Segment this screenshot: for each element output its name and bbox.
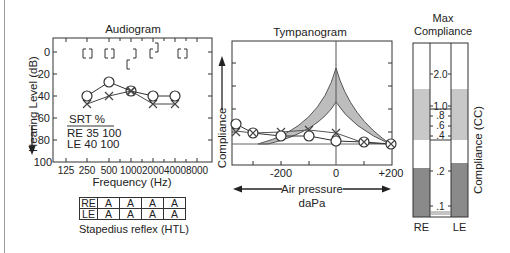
tympanogram-x-unit: daPa [299, 197, 326, 209]
svg-text:.2: .2 [436, 166, 445, 177]
svg-text:60: 60 [38, 112, 50, 124]
reflex-cell: A [120, 198, 142, 209]
srt-header: SRT % [69, 113, 105, 125]
tympanogram-y-label: Compliance [216, 108, 228, 169]
max-compliance-title-1: Max [433, 12, 454, 24]
max-compliance-title-2: Compliance [414, 25, 472, 37]
figure-canvas: Audiogram 0 20 40 60 80 100 125 250 50 [0, 0, 510, 253]
max-compliance-col-le: LE [453, 221, 466, 233]
svg-text:2000: 2000 [142, 165, 165, 176]
svg-text:40: 40 [38, 90, 50, 102]
audiogram-re-line [87, 82, 175, 96]
svg-text:0: 0 [44, 46, 50, 58]
tympanogram-frame [232, 41, 392, 165]
svg-text:4000: 4000 [164, 165, 187, 176]
svg-text:.1: .1 [436, 201, 445, 212]
srt-le: LE 40 100 [67, 138, 119, 150]
reflex-row-re: RE A A A A [80, 198, 186, 209]
reflex-cell: A [164, 209, 186, 220]
svg-text:0: 0 [333, 167, 339, 179]
tympanogram-x-tick-labels: -200 0 +200 [270, 167, 403, 179]
svg-text:1000: 1000 [120, 165, 143, 176]
reflex-row-label: LE [80, 209, 98, 220]
reflex-row-label: RE [80, 198, 98, 209]
svg-text:8000: 8000 [186, 165, 209, 176]
stapedius-reflex-table: RE A A A A LE A A A A [79, 197, 186, 220]
audiogram-le-line [87, 91, 175, 104]
svg-text:.4: .4 [436, 130, 445, 141]
audiogram-y-label: Hearing Level (dB) [27, 56, 39, 152]
reflex-caption: Stapedius reflex (HTL) [74, 223, 194, 235]
le-band-low [451, 163, 468, 217]
audiogram-le-x-markers [83, 87, 179, 108]
svg-text:+200: +200 [379, 167, 404, 179]
svg-text:100: 100 [34, 156, 52, 168]
re-band-low [413, 168, 430, 217]
svg-text:-200: -200 [270, 167, 292, 179]
max-compliance-col-re: RE [414, 221, 429, 233]
audiogram-x-label: Frequency (Hz) [92, 176, 171, 188]
audiogram-title: Audiogram [105, 23, 161, 35]
overlap-x-marker [127, 87, 135, 95]
svg-text:20: 20 [38, 68, 50, 80]
max-compliance-y-label: Compliance (CC) [472, 106, 484, 194]
audiogram-re-o-markers [82, 77, 180, 101]
reflex-cell: A [98, 209, 120, 220]
tympanogram-x-label: Air pressure [281, 183, 343, 195]
svg-text:125: 125 [58, 165, 75, 176]
svg-text:250: 250 [79, 165, 96, 176]
le-band-top [451, 43, 468, 89]
svg-text:80: 80 [38, 134, 50, 146]
reflex-cell: A [120, 209, 142, 220]
tympanogram-title: Tympanogram [273, 26, 347, 38]
svg-text:2.0: 2.0 [434, 69, 448, 80]
audiogram-x-tick-labels: 125 250 500 1000 2000 4000 8000 [58, 165, 209, 176]
reflex-cell: A [142, 198, 164, 209]
reflex-cell: A [142, 209, 164, 220]
le-band-normal [451, 140, 468, 163]
reflex-cell: A [164, 198, 186, 209]
up-arrow-icon [219, 56, 226, 110]
bone-conduction-markers [83, 43, 187, 69]
re-band-top [413, 43, 430, 89]
reflex-row-le: LE A A A A [80, 209, 186, 220]
le-band-high [451, 89, 468, 140]
svg-text:500: 500 [101, 165, 118, 176]
re-band-high [413, 89, 430, 140]
reflex-cell: A [98, 198, 120, 209]
re-band-normal [413, 140, 430, 168]
